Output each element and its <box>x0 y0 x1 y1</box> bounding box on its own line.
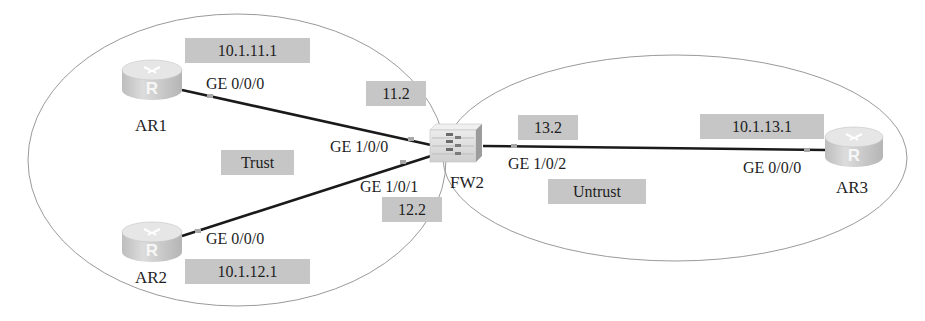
port-dot-fw2-ge101 <box>400 160 406 164</box>
device-name-ar1: AR1 <box>135 117 167 135</box>
device-name-ar2: AR2 <box>135 269 167 287</box>
port-dot-fw2-ge102 <box>511 144 517 148</box>
port-dot-ar3 <box>804 148 810 152</box>
zone-label-untrust: Untrust <box>548 179 646 204</box>
firewall-icon-fw2 <box>430 124 482 162</box>
svg-text:R: R <box>146 79 158 98</box>
router-icon-ar1: R <box>122 60 182 100</box>
link-fw2-ar3 <box>483 146 826 150</box>
ip-box-fw2-ge101: 12.2 <box>382 197 442 222</box>
interface-label-fw2-ge102: GE 1/0/2 <box>508 155 566 173</box>
port-dot-ar2 <box>195 229 201 233</box>
svg-text:R: R <box>848 146 860 165</box>
router-icon-ar3: R <box>825 127 883 167</box>
interface-label-fw2-ge100: GE 1/0/0 <box>330 138 388 156</box>
router-icon-ar2: R <box>122 222 182 262</box>
ip-box-fw2-ge102: 13.2 <box>518 115 578 140</box>
interface-label-fw2-ge101: GE 1/0/1 <box>360 178 418 196</box>
port-dot-fw2-ge100 <box>408 137 414 141</box>
ip-box-fw2-ge100: 11.2 <box>366 81 426 106</box>
zone-label-trust: Trust <box>221 150 294 175</box>
interface-label-ar3: GE 0/0/0 <box>743 159 801 177</box>
interface-label-ar1: GE 0/0/0 <box>206 75 264 93</box>
link-ar2-fw2 <box>182 156 431 236</box>
port-dot-ar1 <box>207 94 213 98</box>
device-name-fw2: FW2 <box>450 174 484 192</box>
ip-box-ar3: 10.1.13.1 <box>700 114 824 139</box>
interface-label-ar2: GE 0/0/0 <box>206 230 264 248</box>
ip-box-ar2: 10.1.12.1 <box>185 259 310 284</box>
device-name-ar3: AR3 <box>836 179 868 197</box>
ip-box-ar1: 10.1.11.1 <box>185 38 310 63</box>
svg-text:R: R <box>146 241 158 260</box>
network-diagram: R R R <box>0 0 925 321</box>
